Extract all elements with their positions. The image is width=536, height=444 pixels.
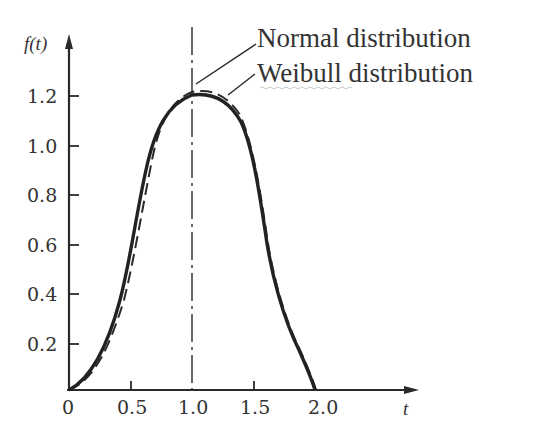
legend-weibull: Weibull distribution xyxy=(257,58,474,88)
y-axis-arrow-icon xyxy=(65,34,73,49)
y-tick-label: 0.6 xyxy=(27,234,57,256)
weibull-callout-line xyxy=(228,74,255,95)
x-axis-arrow-icon xyxy=(404,386,419,394)
y-axis-label: f(t) xyxy=(24,33,47,55)
y-ticks xyxy=(69,96,79,344)
y-tick-label: 1.2 xyxy=(27,85,57,107)
legend-normal: Normal distribution xyxy=(257,23,471,53)
x-tick-label: 1.5 xyxy=(240,396,270,418)
x-tick-label: 0.5 xyxy=(117,396,147,418)
y-tick-label: 0.8 xyxy=(27,184,57,206)
y-tick-label: 1.0 xyxy=(27,135,57,157)
x-tick-label: 2.0 xyxy=(308,396,338,418)
axes xyxy=(65,34,419,394)
x-axis-label: t xyxy=(403,398,409,419)
distribution-chart: Normal distribution Weibull distribution… xyxy=(0,0,536,444)
normal-callout-line xyxy=(196,44,256,84)
y-tick-label: 0.4 xyxy=(27,283,57,305)
x-tick-label: 1.0 xyxy=(178,396,208,418)
y-tick-label: 0.2 xyxy=(27,333,57,355)
x-tick-label: 0 xyxy=(62,396,74,418)
